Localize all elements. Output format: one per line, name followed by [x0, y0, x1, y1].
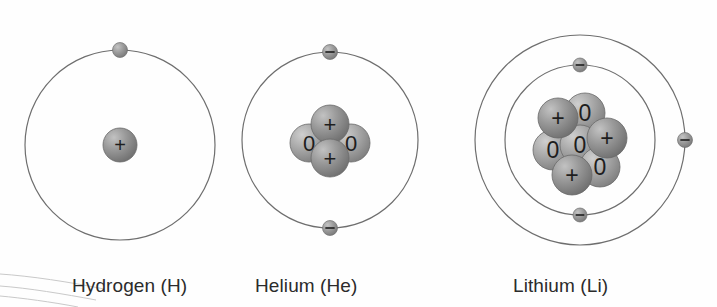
- nucleus-lithium: 0000+++: [533, 93, 627, 195]
- atom-hydrogen: +: [25, 43, 215, 241]
- label-helium: Helium (He): [255, 275, 357, 297]
- atom-lithium: 0000+++: [475, 35, 693, 245]
- artifact-line: [0, 296, 78, 307]
- proton-symbol: +: [114, 134, 126, 156]
- proton-symbol: +: [600, 125, 613, 151]
- electron-helium-2: [323, 221, 338, 236]
- electron-hydrogen-1: [113, 43, 128, 58]
- electron-helium-1: [323, 45, 338, 60]
- electron-sphere: [113, 43, 128, 58]
- proton-symbol: +: [324, 112, 337, 137]
- label-hydrogen: Hydrogen (H): [72, 275, 187, 297]
- electron-lithium-2: [573, 208, 587, 222]
- proton-symbol: +: [324, 146, 337, 171]
- atom-diagram-canvas: +00++0000+++: [0, 0, 717, 307]
- neutron-symbol: 0: [579, 100, 592, 126]
- label-lithium: Lithium (Li): [513, 275, 608, 297]
- proton-symbol: +: [565, 162, 578, 188]
- atom-diagram-figure: +00++0000+++ Hydrogen (H)Helium (He)Lith…: [0, 0, 717, 307]
- electron-lithium-1: [573, 58, 587, 72]
- atom-helium: 00++: [242, 45, 418, 236]
- nucleus-helium: 00++: [290, 105, 370, 177]
- neutron-symbol: 0: [547, 137, 560, 163]
- electron-lithium-3: [678, 133, 693, 148]
- proton-symbol: +: [551, 105, 564, 131]
- nucleus-hydrogen: +: [103, 128, 137, 162]
